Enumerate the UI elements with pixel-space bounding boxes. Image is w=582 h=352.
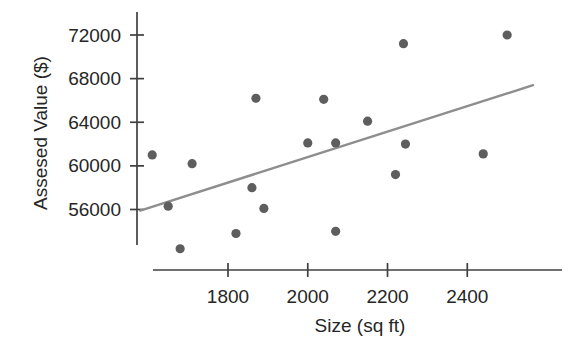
x-axis-title: Size (sq ft) — [315, 315, 406, 336]
data-point — [399, 39, 408, 48]
data-point — [164, 202, 173, 211]
data-point — [479, 149, 488, 158]
data-point — [363, 117, 372, 126]
x-tick-label: 2200 — [366, 286, 408, 307]
data-point — [247, 183, 256, 192]
scatter-plot-figure: 7200068000640006000056000180020002200240… — [0, 0, 582, 352]
data-point — [231, 229, 240, 238]
y-tick-label: 60000 — [68, 155, 121, 176]
y-tick-label: 64000 — [68, 112, 121, 133]
data-point — [391, 170, 400, 179]
x-tick-label: 2400 — [446, 286, 488, 307]
data-point — [303, 138, 312, 147]
x-tick-label: 2000 — [287, 286, 329, 307]
data-point — [401, 139, 410, 148]
chart-canvas: 7200068000640006000056000180020002200240… — [0, 0, 582, 352]
data-point — [188, 159, 197, 168]
x-tick-label: 1800 — [207, 286, 249, 307]
data-point — [331, 138, 340, 147]
y-axis-title: Assesed Value ($) — [30, 56, 51, 210]
data-point — [176, 244, 185, 253]
data-point — [503, 30, 512, 39]
trend-line — [140, 85, 533, 210]
data-point — [148, 150, 157, 159]
data-point — [251, 94, 260, 103]
y-tick-label: 68000 — [68, 68, 121, 89]
data-point — [319, 95, 328, 104]
y-tick-label: 72000 — [68, 25, 121, 46]
y-tick-label: 56000 — [68, 199, 121, 220]
data-point — [259, 204, 268, 213]
data-point — [331, 227, 340, 236]
